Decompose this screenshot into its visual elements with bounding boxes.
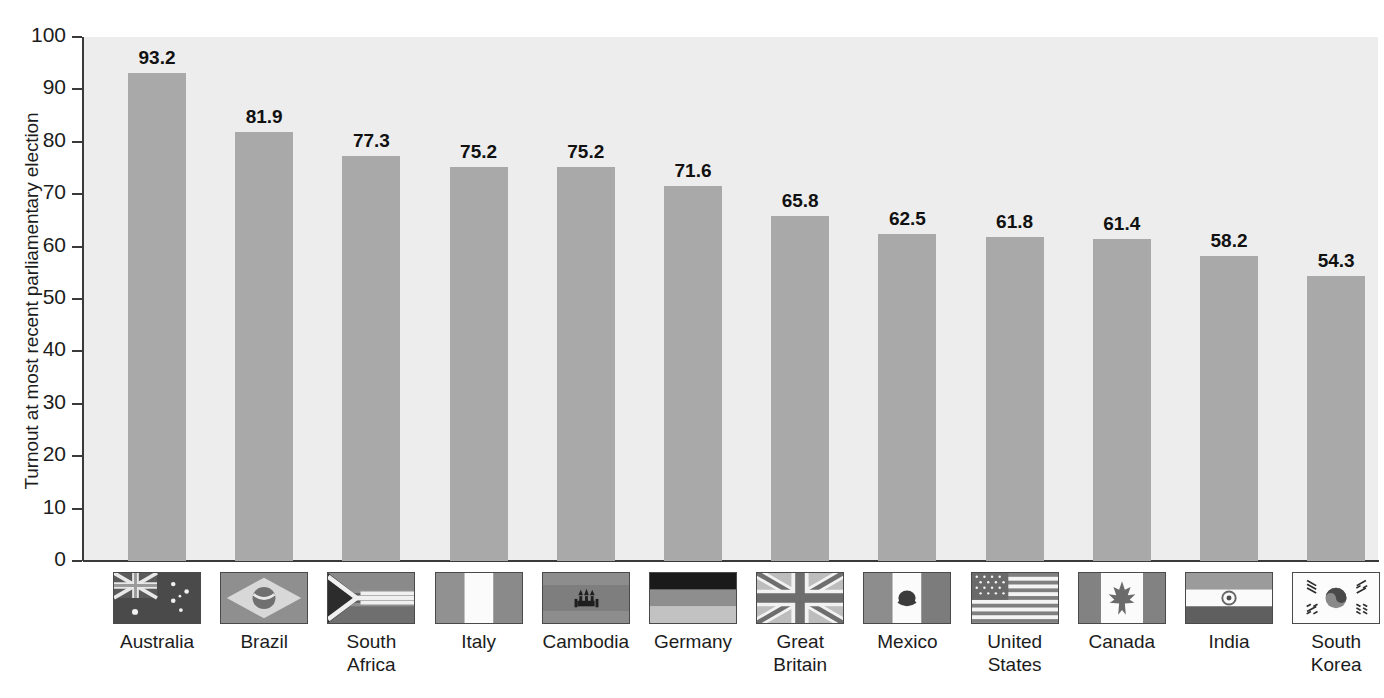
category-label: South Africa (325, 630, 417, 676)
category-label: Canada (1076, 630, 1168, 653)
category-cell: Australia (111, 572, 203, 653)
y-tick-mark (72, 560, 82, 562)
bar (557, 167, 615, 561)
bar-value-label: 75.2 (536, 141, 636, 163)
category-cell: Italy (433, 572, 525, 653)
bar (878, 234, 936, 562)
flag-india-icon (1185, 572, 1273, 624)
flag-great-britain-icon (756, 572, 844, 624)
flag-south-korea-icon (1292, 572, 1380, 624)
flag-united-states-icon (971, 572, 1059, 624)
y-tick-label: 100 (14, 23, 66, 47)
y-tick-label: 90 (14, 75, 66, 99)
y-tick-label: 30 (14, 390, 66, 414)
category-cell: India (1183, 572, 1275, 653)
bar-value-label: 77.3 (321, 130, 421, 152)
y-tick-mark (72, 193, 82, 195)
y-tick-mark (72, 88, 82, 90)
y-axis-line (82, 37, 84, 561)
y-tick-label: 0 (14, 547, 66, 571)
category-cell: South Africa (325, 572, 417, 676)
bar-value-label: 71.6 (643, 160, 743, 182)
bar-chart: Turnout at most recent parliamentary ele… (0, 0, 1384, 698)
flag-italy-icon (435, 572, 523, 624)
y-tick-mark (72, 403, 82, 405)
flag-cambodia-icon (542, 572, 630, 624)
category-cell: Brazil (218, 572, 310, 653)
category-label: Brazil (218, 630, 310, 653)
bar-value-label: 61.8 (965, 211, 1065, 233)
bar-value-label: 93.2 (107, 47, 207, 69)
bar-value-label: 54.3 (1286, 250, 1384, 272)
y-tick-label: 20 (14, 442, 66, 466)
category-label: India (1183, 630, 1275, 653)
bar-value-label: 61.4 (1072, 213, 1172, 235)
category-label: Mexico (861, 630, 953, 653)
category-cell: Great Britain (754, 572, 846, 676)
category-label: South Korea (1290, 630, 1382, 676)
category-cell: Germany (647, 572, 739, 653)
category-label: Great Britain (754, 630, 846, 676)
y-tick-mark (72, 455, 82, 457)
y-tick-mark (72, 141, 82, 143)
category-cell: Cambodia (540, 572, 632, 653)
bar (1200, 256, 1258, 561)
bar (1307, 276, 1365, 561)
y-tick-label: 80 (14, 128, 66, 152)
y-tick-label: 50 (14, 285, 66, 309)
category-label: Germany (647, 630, 739, 653)
bar (986, 237, 1044, 561)
category-cell: Mexico (861, 572, 953, 653)
bar-value-label: 62.5 (857, 208, 957, 230)
bar (342, 156, 400, 561)
category-cell: Canada (1076, 572, 1168, 653)
y-tick-label: 60 (14, 233, 66, 257)
y-tick-mark (72, 246, 82, 248)
flag-mexico-icon (863, 572, 951, 624)
bar-value-label: 58.2 (1179, 230, 1279, 252)
y-tick-mark (72, 508, 82, 510)
flag-brazil-icon (220, 572, 308, 624)
y-tick-mark (72, 298, 82, 300)
category-cell: South Korea (1290, 572, 1382, 676)
category-cell: United States (969, 572, 1061, 676)
y-tick-label: 70 (14, 180, 66, 204)
flag-canada-icon (1078, 572, 1166, 624)
bar-value-label: 75.2 (429, 141, 529, 163)
bar (1093, 239, 1151, 561)
category-label: Cambodia (540, 630, 632, 653)
category-label: United States (969, 630, 1061, 676)
bar-value-label: 81.9 (214, 106, 314, 128)
flag-germany-icon (649, 572, 737, 624)
y-tick-mark (72, 350, 82, 352)
category-label: Italy (433, 630, 525, 653)
bar (128, 73, 186, 561)
y-tick-label: 10 (14, 495, 66, 519)
flag-south-africa-icon (327, 572, 415, 624)
bar (235, 132, 293, 561)
bar (450, 167, 508, 561)
category-label: Australia (111, 630, 203, 653)
y-tick-mark (72, 36, 82, 38)
bar (664, 186, 722, 561)
flag-australia-icon (113, 572, 201, 624)
y-tick-label: 40 (14, 337, 66, 361)
bar-value-label: 65.8 (750, 190, 850, 212)
bar (771, 216, 829, 561)
